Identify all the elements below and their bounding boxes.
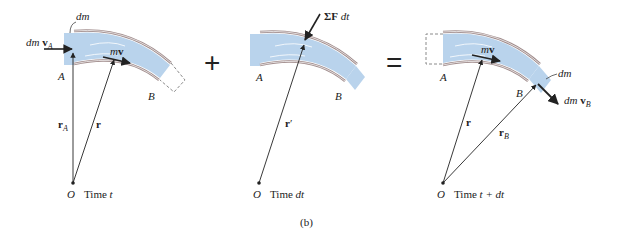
panel-time-dt: ΣF dt A B r′ O Time dt (250, 10, 365, 200)
vector-r-prime (259, 45, 304, 183)
svg-text:dm vA: dm vA (26, 36, 53, 51)
label-time-t-plus-dt: Time t + dt (454, 188, 505, 200)
dashed-inlet-element (426, 34, 443, 64)
svg-text:dm vB: dm vB (564, 94, 591, 109)
panel-time-t: dm dm vA mv A B rA r O Time t (26, 10, 185, 200)
svg-text:rA: rA (58, 118, 68, 133)
arrow-sum-force (305, 14, 320, 40)
svg-text:mv: mv (481, 43, 495, 55)
svg-text:mv: mv (110, 45, 124, 57)
label-A: A (255, 71, 263, 83)
origin-point (257, 181, 261, 185)
origin-point (71, 181, 75, 185)
momentum-control-volume-diagram: dm dm vA mv A B rA r O Time t + (0, 0, 618, 240)
vector-r (73, 60, 114, 183)
inlet-fluid (250, 34, 260, 66)
label-dm: dm (76, 10, 90, 22)
label-A: A (439, 71, 447, 83)
label-time-t: Time t (84, 188, 114, 200)
label-B: B (516, 87, 523, 99)
label-r: r (466, 116, 471, 128)
svg-text:r′: r′ (285, 117, 292, 129)
label-A: A (57, 70, 65, 82)
label-sum-force: ΣF (324, 10, 338, 22)
label-dm-prefix: dm (26, 36, 42, 48)
label-O: O (437, 188, 445, 200)
label-O: O (253, 188, 261, 200)
label-dm: dm (558, 67, 572, 79)
label-B: B (335, 90, 342, 102)
plus-operator: + (204, 47, 220, 78)
arrow-dm-vB (538, 84, 558, 104)
label-O: O (67, 188, 75, 200)
svg-text:rB: rB (499, 126, 509, 141)
svg-text:ΣF dt: ΣF dt (324, 10, 350, 22)
label-time-dt: Time dt (270, 188, 305, 200)
vector-rB (443, 85, 536, 183)
origin-point (441, 181, 445, 185)
vector-r (443, 60, 482, 183)
equals-operator: = (386, 47, 402, 78)
panel-time-t-plus-dt: mv dm dm vB A B r rB O Time t + dt (426, 31, 591, 200)
label-B: B (148, 90, 155, 102)
figure-caption: (b) (300, 216, 313, 229)
label-r: r (96, 118, 101, 130)
